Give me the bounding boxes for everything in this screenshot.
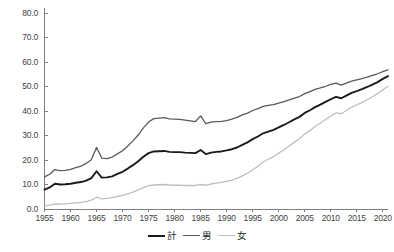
legend-item-女[interactable]: 女 — [218, 231, 247, 241]
y-tick-label: 40.0 — [4, 106, 38, 116]
series-line-男 — [45, 70, 389, 177]
legend-label: 男 — [202, 231, 212, 241]
line-chart: 0.010.020.030.040.050.060.070.080.0 1955… — [0, 0, 394, 252]
x-tick-label: 1995 — [239, 213, 267, 223]
y-tick-label: 30.0 — [4, 130, 38, 140]
x-tick-label: 2020 — [369, 213, 394, 223]
data-series-group — [45, 70, 389, 206]
series-line-女 — [45, 86, 389, 206]
x-tick-label: 2015 — [343, 213, 371, 223]
x-tick-label: 1965 — [83, 213, 111, 223]
legend-swatch-icon — [218, 235, 235, 236]
y-tick-label: 20.0 — [4, 155, 38, 165]
tick-marks — [45, 13, 383, 212]
x-tick-label: 1990 — [213, 213, 241, 223]
x-tick-label: 1970 — [109, 213, 137, 223]
legend-label: 女 — [237, 231, 247, 241]
legend-swatch-icon — [148, 235, 165, 237]
y-tick-label: 0.0 — [4, 204, 38, 214]
x-tick-label: 2010 — [317, 213, 345, 223]
legend-item-男[interactable]: 男 — [183, 231, 212, 241]
y-tick-label: 60.0 — [4, 57, 38, 67]
x-tick-label: 1975 — [135, 213, 163, 223]
legend-swatch-icon — [183, 235, 200, 236]
chart-legend: 計男女 — [0, 231, 394, 241]
y-tick-label: 50.0 — [4, 81, 38, 91]
series-line-計 — [45, 76, 389, 189]
legend-label: 計 — [167, 231, 177, 241]
y-tick-label: 10.0 — [4, 179, 38, 189]
legend-item-計[interactable]: 計 — [148, 231, 177, 241]
y-tick-label: 70.0 — [4, 32, 38, 42]
x-tick-label: 2000 — [265, 213, 293, 223]
x-tick-label: 1985 — [187, 213, 215, 223]
x-tick-label: 2005 — [291, 213, 319, 223]
x-tick-label: 1960 — [57, 213, 85, 223]
y-tick-label: 80.0 — [4, 8, 38, 18]
x-tick-label: 1955 — [31, 213, 59, 223]
x-tick-label: 1980 — [161, 213, 189, 223]
axis-group — [45, 8, 389, 209]
